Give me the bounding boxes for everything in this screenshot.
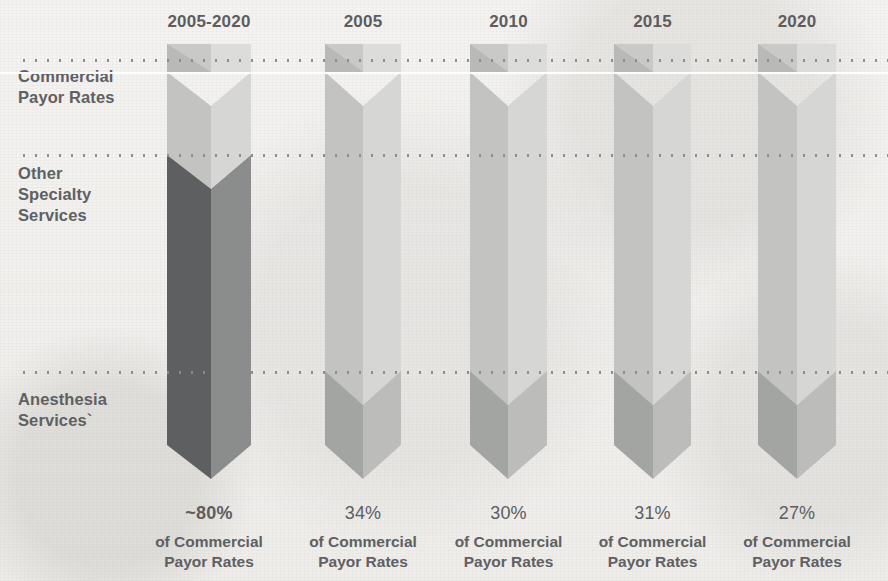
value-percent-2020: 27% bbox=[700, 503, 888, 524]
column-cap-right bbox=[797, 44, 836, 72]
column-body-upper-left bbox=[758, 72, 797, 405]
top-highlight-line bbox=[0, 72, 888, 74]
column-body-upper-left bbox=[470, 72, 508, 405]
axis-label-anesthesia-services: Anesthesia Services` bbox=[18, 389, 107, 431]
column-body-upper-left bbox=[614, 72, 653, 405]
column-2005 bbox=[325, 44, 401, 481]
column-cap-right bbox=[211, 44, 251, 72]
column-cap-right bbox=[363, 44, 401, 72]
axis-label-commercial-line1: Commercial bbox=[18, 66, 114, 87]
column-body-upper-right bbox=[508, 72, 547, 405]
value-sublabel-line2-2020: Payor Rates bbox=[700, 552, 888, 572]
column-2010 bbox=[470, 44, 547, 481]
axis-label-anesthesia-line1: Anesthesia bbox=[18, 389, 107, 410]
year-header-2020: 2020 bbox=[698, 12, 888, 32]
column-2020 bbox=[758, 44, 836, 481]
axis-label-anesthesia-line2: Services` bbox=[18, 410, 107, 431]
value-sublabel-line1-2020: of Commercial bbox=[700, 532, 888, 552]
column-body-upper-right bbox=[653, 72, 691, 405]
stacked-3d-column-chart: 2005-20202005201020152020 Commercial Pay… bbox=[0, 0, 888, 581]
column-cap-right bbox=[653, 44, 691, 72]
gridline-other-specialty-services bbox=[18, 154, 888, 157]
axis-label-other-line2: Specialty bbox=[18, 184, 91, 205]
axis-label-other-line1: Other bbox=[18, 163, 91, 184]
column-2005-2020 bbox=[167, 44, 251, 481]
column-body-upper-right bbox=[363, 72, 401, 405]
column-cap-right bbox=[508, 44, 547, 72]
column-body-upper-left bbox=[325, 72, 363, 405]
axis-label-commercial-line2: Payor Rates bbox=[18, 87, 114, 108]
gridline-anesthesia-services bbox=[18, 371, 888, 374]
axis-label-other-specialty-services: Other Specialty Services bbox=[18, 163, 91, 226]
column-body-upper-right bbox=[797, 72, 836, 405]
column-body-lower-right bbox=[211, 155, 251, 479]
gridline-commercial-payor-rates bbox=[18, 59, 888, 62]
value-block-2020: 27%of CommercialPayor Rates bbox=[700, 503, 888, 572]
axis-label-other-line3: Services bbox=[18, 205, 91, 226]
column-body-lower-left bbox=[167, 155, 211, 479]
column-2015 bbox=[614, 44, 691, 481]
